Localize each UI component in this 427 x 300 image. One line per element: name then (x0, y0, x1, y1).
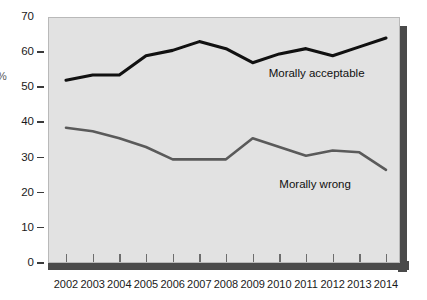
series-line-morally-wrong (66, 128, 386, 170)
series-label-morally-acceptable: Morally acceptable (269, 67, 365, 79)
series-lines (0, 0, 427, 300)
chart-figure: % 010203040506070 2002200320042005200620… (0, 0, 427, 300)
series-label-morally-wrong: Morally wrong (279, 178, 351, 190)
